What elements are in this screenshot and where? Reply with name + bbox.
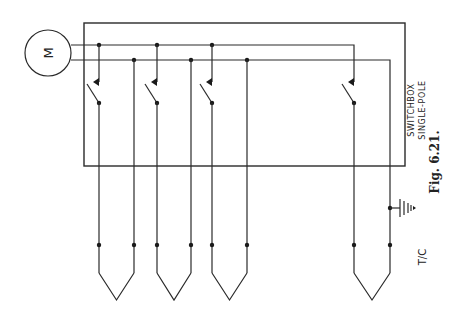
motor-label: M (41, 47, 56, 58)
switchbox-wiring-diagram: M (0, 0, 462, 318)
switch-3 (200, 45, 214, 273)
earth-ground-icon (388, 199, 416, 217)
thermocouple-4 (352, 243, 392, 300)
thermocouple-3 (210, 243, 249, 300)
switch-1 (87, 45, 101, 273)
switchbox-label-line1: SWITCHBOX (407, 83, 416, 136)
switch-2 (145, 45, 159, 273)
thermocouple-2 (155, 243, 193, 300)
switchbox-label-line2: SINGLE-POLE (418, 80, 427, 139)
thermocouple-label: T/C (417, 249, 428, 266)
motor-symbol: M (25, 30, 71, 76)
figure-caption: Fig. 6.21. (428, 130, 442, 193)
thermocouple-1 (97, 243, 136, 300)
